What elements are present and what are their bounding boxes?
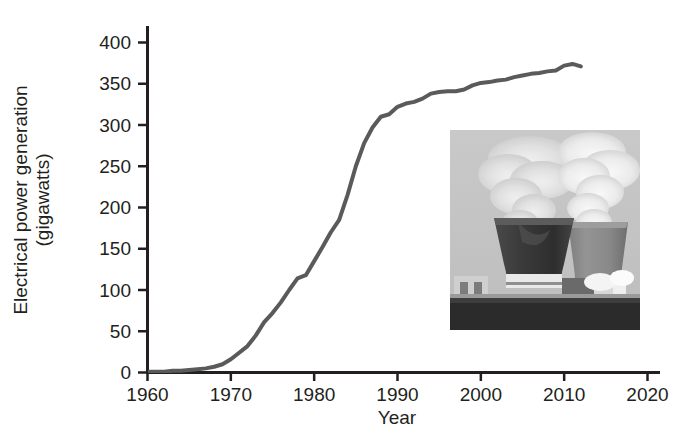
chart-figure: Electrical power generation (gigawatts) … [0,0,682,438]
y-tick-label: 0 [120,362,131,383]
x-tick-label: 1970 [210,384,252,405]
x-tick-label: 1980 [293,384,335,405]
y-tick-label: 50 [110,321,131,342]
nuclear-power-plant-photo [450,130,640,330]
x-axis-ticks: 1960197019801990200020102020 [126,372,668,405]
y-tick-label: 250 [99,156,131,177]
x-tick-label: 1960 [126,384,168,405]
y-tick-label: 350 [99,73,131,94]
x-tick-label: 1990 [376,384,418,405]
x-tick-label: 2020 [626,384,668,405]
x-axis-title: Year [378,407,417,428]
y-axis-title-line1: Electrical power generation [10,85,31,314]
y-tick-label: 300 [99,115,131,136]
y-tick-label: 400 [99,32,131,53]
y-axis-title: Electrical power generation (gigawatts) [10,85,53,314]
y-tick-label: 100 [99,280,131,301]
y-axis-title-line2: (gigawatts) [32,154,53,247]
y-tick-label: 200 [99,197,131,218]
x-tick-label: 2000 [460,384,502,405]
x-tick-label: 2010 [543,384,585,405]
y-tick-label: 150 [99,238,131,259]
power-plant-illustration [450,130,640,330]
y-axis-ticks: 050100150200250300350400 [99,32,147,383]
